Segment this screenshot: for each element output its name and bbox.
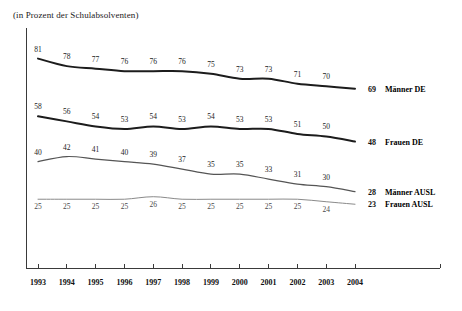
data-label: 53 <box>236 116 244 124</box>
data-label: 41 <box>92 146 100 154</box>
data-label: 53 <box>121 116 129 124</box>
x-axis-tick-label: 1993 <box>30 278 46 287</box>
data-label: 25 <box>207 203 215 211</box>
data-label: 42 <box>63 144 71 152</box>
x-axis-tick-label: 1995 <box>88 278 104 287</box>
x-axis-tick-label: 2001 <box>261 278 277 287</box>
chart-page: (in Prozent der Schulabsolventen) 817877… <box>0 0 462 311</box>
chart-plot-area <box>0 0 462 311</box>
data-label: 70 <box>322 73 330 81</box>
data-label: 56 <box>63 108 71 116</box>
data-label: 54 <box>150 113 158 121</box>
data-label: 73 <box>236 66 244 74</box>
x-axis-tick-label: 2000 <box>232 278 248 287</box>
data-label: 25 <box>34 203 42 211</box>
series-legend-label: Frauen AUSL <box>385 200 433 209</box>
data-label: 54 <box>92 113 100 121</box>
data-label: 25 <box>92 203 100 211</box>
data-label: 53 <box>178 116 186 124</box>
data-label: 77 <box>92 56 100 64</box>
data-label: 76 <box>121 58 129 66</box>
x-axis-tick-label: 2003 <box>318 278 334 287</box>
data-label: 25 <box>236 203 244 211</box>
data-label: 37 <box>178 156 186 164</box>
data-label: 75 <box>207 61 215 69</box>
data-label: 25 <box>265 203 273 211</box>
data-label: 51 <box>294 121 302 129</box>
data-label: 76 <box>150 58 158 66</box>
data-label: 50 <box>322 123 330 131</box>
x-axis-tick-label: 1999 <box>203 278 219 287</box>
data-label: 33 <box>265 166 273 174</box>
chart-axes <box>26 28 440 268</box>
series-end-value: 48 <box>368 137 376 146</box>
chart-series-lines <box>38 59 355 205</box>
data-label: 26 <box>150 201 158 209</box>
data-label: 53 <box>265 116 273 124</box>
x-axis-tick-label: 2004 <box>347 278 363 287</box>
series-line-3 <box>38 156 355 191</box>
series-legend-label: Männer AUSL <box>385 187 435 196</box>
series-line-4 <box>38 197 355 205</box>
data-label: 40 <box>121 149 129 157</box>
data-label: 40 <box>34 149 42 157</box>
data-label: 25 <box>63 203 71 211</box>
data-label: 25 <box>294 203 302 211</box>
series-line-2 <box>38 116 355 141</box>
data-label: 81 <box>34 46 42 54</box>
data-label: 25 <box>121 203 129 211</box>
series-end-value: 28 <box>368 187 376 196</box>
data-label: 35 <box>207 161 215 169</box>
data-label: 73 <box>265 66 273 74</box>
data-label: 54 <box>207 113 215 121</box>
series-line-1 <box>38 59 355 89</box>
series-end-value: 23 <box>368 200 376 209</box>
data-label: 31 <box>294 171 302 179</box>
data-label: 24 <box>322 206 330 214</box>
data-label: 35 <box>236 161 244 169</box>
data-label: 76 <box>178 58 186 66</box>
series-legend-label: Frauen DE <box>385 137 423 146</box>
x-axis-tick-label: 2002 <box>289 278 305 287</box>
data-label: 78 <box>63 53 71 61</box>
data-label: 39 <box>150 151 158 159</box>
series-legend-label: Männer DE <box>385 84 426 93</box>
series-end-value: 69 <box>368 84 376 93</box>
data-label: 58 <box>34 103 42 111</box>
data-label: 25 <box>178 203 186 211</box>
x-axis-tick-label: 1994 <box>59 278 75 287</box>
data-label: 71 <box>294 71 302 79</box>
x-axis-tick-label: 1997 <box>145 278 161 287</box>
x-axis-tick-label: 1998 <box>174 278 190 287</box>
data-label: 30 <box>322 174 330 182</box>
x-axis-tick-label: 1996 <box>117 278 133 287</box>
